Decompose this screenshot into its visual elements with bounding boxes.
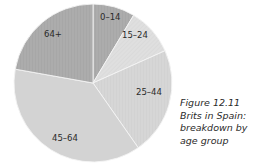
slice-label-0-14: 0–14 bbox=[100, 12, 120, 22]
figure-caption: Figure 12.11 Brits in Spain: breakdown b… bbox=[180, 97, 258, 147]
slice-label-64-plus: 64+ bbox=[44, 29, 62, 39]
caption-title-line-1: Brits in Spain: bbox=[180, 110, 258, 123]
slice-label-15-24: 15–24 bbox=[122, 30, 148, 40]
caption-title-line-3: age group bbox=[180, 135, 258, 148]
caption-title-line-2: breakdown by bbox=[180, 122, 258, 135]
pie-slice-64plus bbox=[15, 4, 93, 83]
caption-figure-number: Figure 12.11 bbox=[180, 97, 258, 110]
pie-slices bbox=[14, 4, 172, 162]
slice-label-25-44: 25–44 bbox=[136, 87, 162, 97]
slice-label-45-64: 45–64 bbox=[52, 133, 78, 143]
